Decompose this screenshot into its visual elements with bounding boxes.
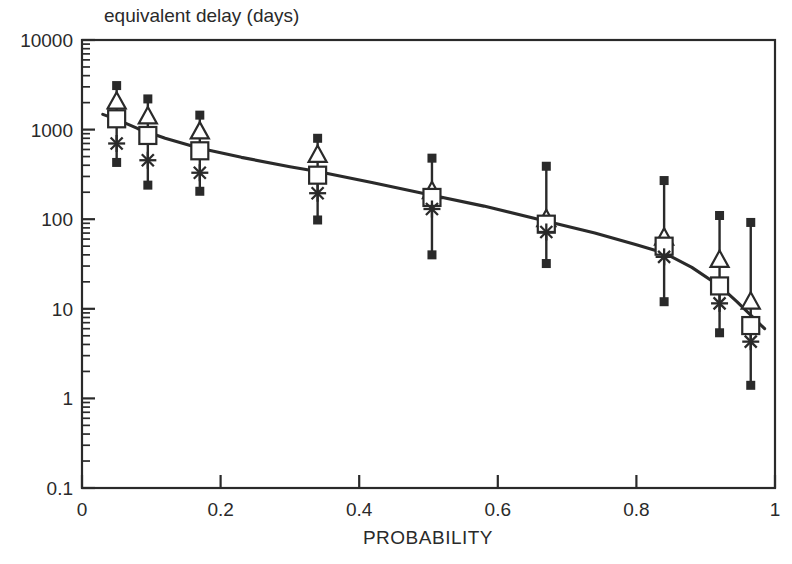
y-tick-label: 1 (62, 388, 73, 409)
error-bar-cap-marker (112, 81, 121, 90)
x-tick-label: 0 (77, 499, 88, 520)
triangle-marker (108, 92, 126, 108)
error-bars-group (112, 81, 755, 390)
triangle-marker (309, 146, 327, 162)
square-marker (742, 317, 759, 334)
x-tick-label: 0.6 (485, 499, 511, 520)
triangle-marker (139, 107, 157, 123)
triangle-marker (742, 292, 760, 308)
x-tick-label: 1 (770, 499, 781, 520)
y-tick-label: 10 (52, 299, 73, 320)
error-bar-cap-marker (195, 187, 204, 196)
error-bar-cap-marker (660, 297, 669, 306)
y-tick-label: 10000 (20, 30, 73, 51)
x-axis-ticks: 00.20.40.60.81 (77, 475, 781, 520)
error-bar-cap-marker (427, 250, 436, 259)
y-tick-label: 1000 (31, 120, 73, 141)
square-marker (711, 277, 728, 294)
x-tick-label: 0.8 (623, 499, 649, 520)
error-bar-cap-marker (746, 381, 755, 390)
error-bar-cap-marker (542, 259, 551, 268)
error-bar-cap-marker (427, 154, 436, 163)
y-axis-title: equivalent delay (days) (104, 5, 299, 26)
x-tick-label: 0.4 (346, 499, 373, 520)
triangle-marker (711, 251, 729, 267)
error-bar-cap-marker (715, 211, 724, 220)
error-bar-cap-marker (143, 94, 152, 103)
y-axis-ticks: 1000010001001010.1 (20, 30, 95, 499)
equivalent-delay-vs-probability-chart: equivalent delay (days) 1000010001001010… (0, 0, 792, 564)
error-bar-cap-marker (112, 158, 121, 167)
error-bar-cap-marker (542, 162, 551, 171)
x-axis-label: PROBABILITY (363, 527, 493, 548)
square-marker (139, 127, 156, 144)
y-tick-label: 100 (41, 209, 73, 230)
error-bar-cap-marker (313, 134, 322, 143)
triangle-marker (191, 122, 209, 138)
data-markers-group (108, 92, 760, 350)
square-marker (191, 142, 208, 159)
square-marker (309, 167, 326, 184)
error-bar-cap-marker (195, 111, 204, 120)
square-marker (108, 110, 125, 127)
error-bar-cap-marker (660, 176, 669, 185)
error-bar-cap-marker (746, 218, 755, 227)
error-bar-cap-marker (313, 215, 322, 224)
y-tick-label: 0.1 (47, 478, 73, 499)
x-tick-label: 0.2 (207, 499, 233, 520)
plot-frame (82, 40, 775, 488)
chart-container: equivalent delay (days) 1000010001001010… (0, 0, 792, 564)
error-bar-cap-marker (715, 328, 724, 337)
error-bar-cap-marker (143, 181, 152, 190)
